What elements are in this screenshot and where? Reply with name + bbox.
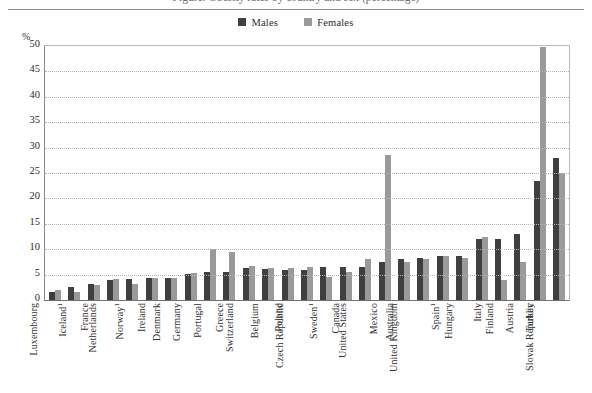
chart-title-clipped: Figure: Obesity rates by country and sex…	[0, 0, 592, 5]
plot-area	[44, 45, 570, 301]
bar-females[interactable]	[385, 155, 391, 300]
x-category-text: Luxembourg	[27, 303, 38, 355]
bar-females[interactable]	[423, 259, 429, 300]
x-category-text: Norway1	[113, 303, 125, 339]
x-category-text: Austria	[504, 303, 515, 333]
x-category-text: Hungary	[443, 303, 454, 339]
x-category-text: Czech Republic	[273, 303, 284, 368]
bar-females[interactable]	[55, 290, 61, 300]
footnote-marker: 1	[56, 303, 64, 307]
x-category-label[interactable]: Hungary	[452, 301, 471, 393]
x-category-label[interactable]: Slovak Republic	[549, 301, 568, 393]
y-tick-label-45: 45	[2, 63, 40, 74]
x-category-text: United States	[337, 303, 348, 358]
title-divider	[8, 9, 584, 10]
bar-females[interactable]	[152, 278, 158, 300]
gridline-30	[45, 148, 569, 149]
x-category-text: Denmark	[151, 303, 162, 341]
x-axis-category-labels: LuxembourgIceland1FranceNetherlandsNorwa…	[44, 301, 568, 393]
legend-item-females[interactable]: Females	[304, 17, 353, 28]
gridline-10	[45, 249, 569, 250]
gridline-5	[45, 275, 569, 276]
y-tick-label-20: 20	[2, 190, 40, 201]
bar-chart-figure: Figure: Obesity rates by country and sex…	[0, 0, 592, 393]
bar-females[interactable]	[365, 259, 371, 300]
y-tick-label-5: 5	[2, 267, 40, 278]
legend-label: Males	[251, 17, 278, 28]
y-tick-label-0: 0	[2, 292, 40, 303]
y-tick-label-10: 10	[2, 241, 40, 252]
gridline-35	[45, 122, 569, 123]
bar-females[interactable]	[74, 292, 80, 300]
x-category-text: Finland	[484, 303, 495, 334]
y-tick-label-30: 30	[2, 140, 40, 151]
y-tick-label-15: 15	[2, 216, 40, 227]
bar-females[interactable]	[462, 258, 468, 300]
bar-females[interactable]	[326, 277, 332, 300]
y-tick-label-25: 25	[2, 165, 40, 176]
legend-label: Females	[317, 17, 353, 28]
bar-females[interactable]	[229, 252, 235, 300]
gridline-20	[45, 198, 569, 199]
x-category-text: Switzerland	[223, 303, 234, 352]
footnote-marker: 1	[307, 303, 315, 307]
x-category-text: Portugal	[192, 303, 203, 338]
bar-females[interactable]	[94, 285, 100, 300]
gridline-15	[45, 224, 569, 225]
footnote-marker: 1	[113, 303, 121, 307]
bar-females[interactable]	[268, 268, 274, 300]
x-category-text: United Kingdom	[388, 303, 399, 372]
chart-title-text: Figure: Obesity rates by country and sex…	[0, 0, 592, 3]
x-category-text: Ireland	[136, 303, 147, 332]
y-axis-tick-labels: 50454035302520151050	[0, 45, 40, 299]
bar-females[interactable]	[249, 266, 255, 300]
x-category-text: Spain1	[428, 303, 440, 330]
bar-females[interactable]	[559, 173, 565, 300]
bar-females[interactable]	[346, 272, 352, 300]
chart-legend: MalesFemales	[0, 14, 592, 30]
footnote-marker: 1	[428, 303, 436, 307]
y-tick-label-35: 35	[2, 114, 40, 125]
bar-females[interactable]	[482, 237, 488, 301]
x-category-text: Mexico	[368, 303, 379, 334]
bar-females[interactable]	[132, 284, 138, 300]
gridline-45	[45, 71, 569, 72]
bar-females[interactable]	[443, 256, 449, 300]
x-category-text: Italy	[471, 303, 482, 322]
x-category-text: Germany	[171, 303, 182, 341]
bar-females[interactable]	[113, 279, 119, 300]
legend-item-males[interactable]: Males	[238, 17, 278, 28]
females-swatch	[304, 18, 312, 26]
bar-females[interactable]	[501, 280, 507, 300]
x-category-text: Netherlands	[87, 303, 98, 352]
x-category-text: Belgium	[250, 303, 261, 338]
y-tick-label-50: 50	[2, 38, 40, 49]
bar-females[interactable]	[520, 262, 526, 300]
bar-females[interactable]	[171, 278, 177, 300]
bar-females[interactable]	[191, 273, 197, 300]
bar-females[interactable]	[404, 262, 410, 300]
gridline-25	[45, 173, 569, 174]
gridline-40	[45, 97, 569, 98]
x-category-text: Iceland1	[56, 303, 68, 337]
bar-females[interactable]	[288, 268, 294, 300]
x-category-text: Slovak Republic	[524, 303, 535, 371]
x-category-text: Sweden1	[307, 303, 319, 339]
males-swatch	[238, 18, 246, 26]
bar-females[interactable]	[307, 267, 313, 300]
y-tick-label-40: 40	[2, 89, 40, 100]
